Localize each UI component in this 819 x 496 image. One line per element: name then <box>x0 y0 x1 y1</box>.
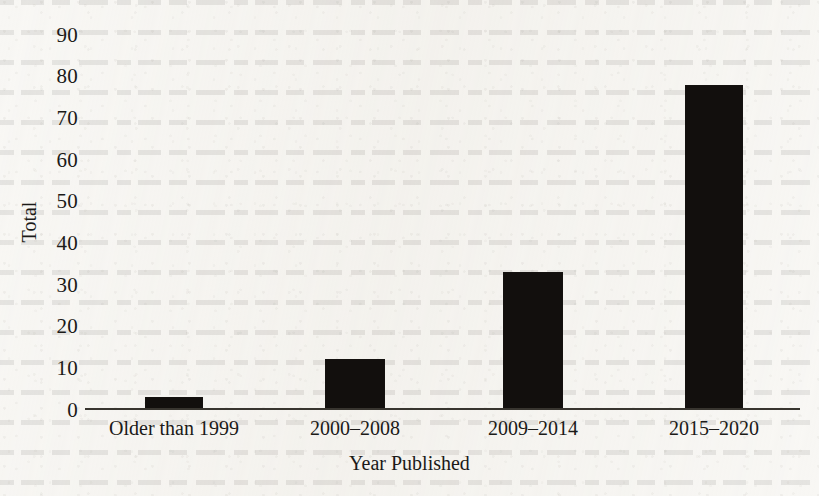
x-tick-label-2015-2020: 2015–2020 <box>669 417 759 440</box>
x-tick-label-older-than-1999: Older than 1999 <box>109 417 239 440</box>
x-tick-label-2000-2008: 2000–2008 <box>310 417 400 440</box>
y-tick-label-10: 10 <box>56 358 78 379</box>
bar-chart-figure: 90 80 70 60 50 40 30 20 10 0 Total Older… <box>0 0 819 496</box>
y-axis-tick-labels: 90 80 70 60 50 40 30 20 10 0 <box>0 0 78 496</box>
x-tick-label-2009-2014: 2009–2014 <box>488 417 578 440</box>
x-axis-line <box>85 408 800 410</box>
x-axis-title: Year Published <box>0 452 819 475</box>
plot-area <box>85 20 800 409</box>
y-tick-label-70: 70 <box>56 108 78 129</box>
y-tick-label-50: 50 <box>56 191 78 212</box>
y-tick-label-80: 80 <box>56 66 78 87</box>
bar-2015-2020 <box>685 85 743 409</box>
y-tick-label-20: 20 <box>56 316 78 337</box>
y-tick-label-90: 90 <box>56 25 78 46</box>
y-tick-label-60: 60 <box>56 150 78 171</box>
y-tick-label-40: 40 <box>56 233 78 254</box>
y-tick-label-0: 0 <box>67 400 78 421</box>
bar-2000-2008 <box>325 359 385 409</box>
y-tick-label-30: 30 <box>56 275 78 296</box>
y-axis-title: Total <box>18 202 41 243</box>
bar-2009-2014 <box>503 272 563 409</box>
